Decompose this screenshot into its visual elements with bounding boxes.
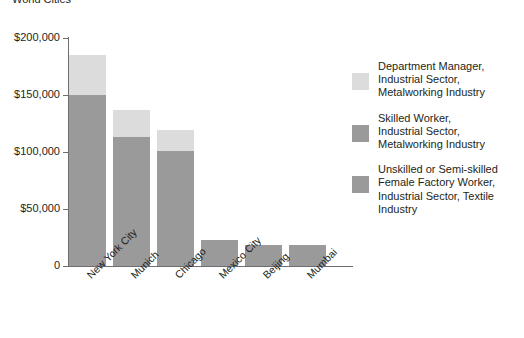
legend-color-swatch — [352, 73, 369, 90]
bar-group[interactable] — [157, 130, 194, 266]
chart-plot-area: $200,000$150,000$100,000$50,0000 New Yor… — [0, 0, 360, 338]
bar-segment[interactable] — [157, 130, 194, 151]
legend-item[interactable]: Unskilled or Semi-skilled Female Factory… — [352, 163, 524, 216]
bar-segment[interactable] — [69, 95, 106, 266]
bar-group[interactable] — [69, 55, 106, 266]
legend-item-label: Unskilled or Semi-skilled Female Factory… — [378, 163, 498, 216]
bar-segment[interactable] — [113, 110, 150, 137]
bar-segment[interactable] — [69, 55, 106, 95]
legend-item[interactable]: Skilled Worker, Industrial Sector, Metal… — [352, 112, 524, 152]
chart-legend: Department Manager, Industrial Sector, M… — [352, 60, 524, 228]
legend-color-swatch — [352, 125, 369, 142]
bar-segment[interactable] — [157, 151, 194, 266]
bar-series-container — [0, 0, 360, 338]
legend-item-label: Skilled Worker, Industrial Sector, Metal… — [378, 112, 485, 152]
legend-item[interactable]: Department Manager, Industrial Sector, M… — [352, 60, 524, 100]
legend-color-swatch — [352, 176, 369, 193]
legend-item-label: Department Manager, Industrial Sector, M… — [378, 60, 485, 100]
